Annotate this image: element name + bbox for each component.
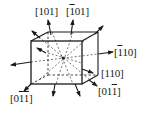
arrow-m110	[98, 52, 113, 54]
arrow-01m1	[89, 80, 97, 86]
label-m110: [110]	[114, 47, 136, 58]
center-point	[62, 57, 64, 59]
crystal-direction-diagram: [101] [101] [110] [110] [011] [011]	[0, 0, 143, 118]
arrow-110	[82, 69, 93, 73]
arrow-101	[48, 20, 51, 35]
label-m101: [101]	[66, 6, 89, 17]
cube-edges	[31, 32, 98, 84]
arrow-upper-left	[32, 31, 40, 38]
arrow-down-left	[53, 84, 55, 96]
arrow-left	[11, 62, 31, 65]
label-01m1: [011]	[98, 86, 120, 97]
label-0m1m1: [011]	[10, 93, 32, 104]
arrow-inner-left	[37, 48, 46, 53]
arrow-0m1m1	[24, 84, 31, 91]
label-101: [101]	[35, 6, 58, 17]
label-110: [110]	[101, 68, 123, 79]
cube-front-face	[31, 41, 82, 84]
arrow-down-right	[75, 84, 80, 96]
arrow-upper-right	[95, 26, 103, 34]
